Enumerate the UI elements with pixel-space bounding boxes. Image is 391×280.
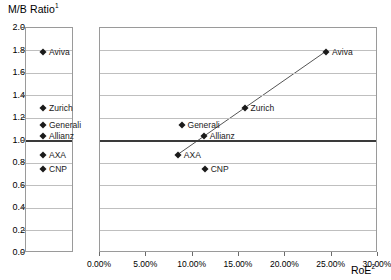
legend-marker-allianz[interactable] [39, 132, 46, 139]
gridline [100, 208, 376, 209]
gridline [26, 208, 72, 209]
x-tick-mark [145, 252, 146, 256]
x-axis-title-superscript: 2 [371, 263, 375, 270]
mb-ratio-legend-panel: AvivaZurichGeneraliAllianzAXACNP [25, 27, 73, 252]
legend-label-cnp: CNP [49, 164, 67, 174]
data-point-label-generali: Generali [188, 120, 220, 130]
x-tick-mark [331, 252, 332, 256]
gridline [100, 95, 376, 96]
x-tick-mark [192, 252, 193, 256]
data-point-label-axa: AXA [184, 150, 201, 160]
gridline [26, 95, 72, 96]
x-tick-label: 5.00% [133, 259, 157, 269]
y-axis-title-superscript: 1 [55, 2, 59, 9]
gridline [100, 163, 376, 164]
data-point-label-allianz: Allianz [210, 131, 235, 141]
legend-marker-cnp[interactable] [39, 165, 46, 172]
data-point-label-zurich: Zurich [251, 103, 275, 113]
gridline [100, 118, 376, 119]
y-axis-ticks: 0.00.20.40.60.81.01.21.41.61.82.0 [0, 27, 25, 252]
x-tick-label: 20.00% [270, 259, 299, 269]
x-axis-ticks: 0.00%5.00%10.00%15.00%20.00%25.00%30.00% [99, 252, 377, 278]
y-axis-title-text: M/B Ratio [8, 3, 55, 15]
x-tick-label: 10.00% [177, 259, 206, 269]
gridline [26, 73, 72, 74]
gridline [100, 73, 376, 74]
x-tick-mark [238, 252, 239, 256]
y-axis-title: M/B Ratio1 [8, 2, 59, 15]
legend-marker-generali[interactable] [39, 121, 46, 128]
x-tick-label: 0.00% [87, 259, 111, 269]
x-axis-title: RoE2 [351, 263, 375, 276]
data-point-label-aviva: Aviva [332, 47, 353, 57]
legend-marker-zurich[interactable] [39, 104, 46, 111]
gridline [26, 230, 72, 231]
x-tick-mark [99, 252, 100, 256]
legend-label-generali: Generali [49, 120, 81, 130]
x-tick-label: 15.00% [224, 259, 253, 269]
parity-reference-line [100, 140, 376, 142]
scatter-plot-area: AvivaZurichGeneraliAllianzAXACNP [99, 27, 377, 252]
gridline [26, 185, 72, 186]
legend-label-axa: AXA [49, 150, 66, 160]
x-axis-title-text: RoE [351, 264, 371, 276]
legend-label-allianz: Allianz [49, 131, 74, 141]
gridline [100, 185, 376, 186]
y-tick-mark [21, 252, 25, 253]
data-point-label-cnp: CNP [211, 164, 229, 174]
gridline [26, 118, 72, 119]
x-tick-mark [284, 252, 285, 256]
x-tick-mark [377, 252, 378, 256]
legend-label-zurich: Zurich [49, 103, 73, 113]
gridline [100, 230, 376, 231]
x-tick-label: 25.00% [316, 259, 345, 269]
legend-label-aviva: Aviva [49, 47, 70, 57]
legend-marker-axa[interactable] [39, 151, 46, 158]
